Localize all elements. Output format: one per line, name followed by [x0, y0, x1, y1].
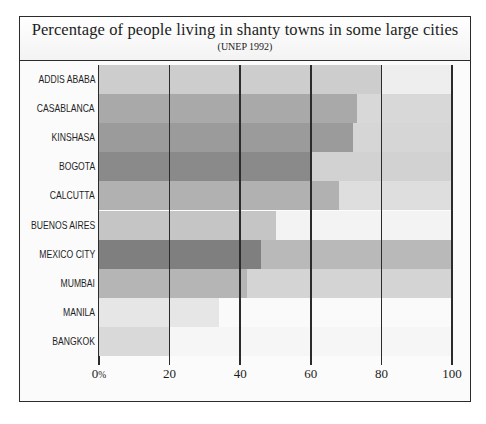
axis-tick-label: 0% [92, 366, 106, 382]
bar [99, 152, 311, 181]
bar [99, 240, 261, 269]
bar [99, 94, 357, 123]
page-title: Percentage of people living in shanty to… [20, 20, 470, 40]
category-label: ADDIS ABABA [38, 65, 95, 94]
bar [99, 181, 339, 210]
plot-wrapper: ADDIS ABABACASABLANCAKINSHASABOGOTACALCU… [20, 61, 470, 403]
chart-title-block: Percentage of people living in shanty to… [20, 17, 470, 61]
category-label: MEXICO CITY [39, 240, 95, 269]
gridline [451, 65, 453, 356]
category-label: BUENOS AIRES [31, 211, 95, 240]
bar-row [99, 181, 452, 210]
category-label: MANILA [63, 298, 95, 327]
gridline [310, 65, 312, 356]
bar-row [99, 298, 452, 327]
axis-tick [169, 356, 171, 365]
bar [99, 123, 353, 152]
gridline [381, 65, 383, 356]
bar-row [99, 123, 452, 152]
category-axis-labels: ADDIS ABABACASABLANCAKINSHASABOGOTACALCU… [20, 65, 98, 356]
axis-tick-label: 100 [442, 366, 462, 382]
bar-row [99, 152, 452, 181]
bar [99, 327, 170, 356]
gridline [169, 65, 171, 356]
axis-tick-label: 80 [375, 366, 388, 382]
bar-row [99, 94, 452, 123]
axis-tick-label: 20 [163, 366, 176, 382]
axis-tick [239, 356, 241, 365]
axis-tick [381, 356, 383, 365]
category-label: CASABLANCA [37, 94, 95, 123]
category-label: BOGOTA [59, 152, 95, 181]
bar [99, 269, 247, 298]
bar [99, 211, 276, 240]
bar-row [99, 240, 452, 269]
axis-tick-label: 40 [234, 366, 247, 382]
plot-area: 0%20406080100 [98, 65, 452, 356]
bar-row [99, 211, 452, 240]
category-label: CALCUTTA [50, 181, 95, 210]
bar-row [99, 269, 452, 298]
gridline [239, 65, 241, 356]
category-label: BANGKOK [52, 327, 95, 356]
chart-frame: Percentage of people living in shanty to… [19, 16, 471, 402]
axis-tick [310, 356, 312, 365]
chart-subtitle: (UNEP 1992) [20, 41, 470, 52]
bar [99, 298, 219, 327]
bar-row [99, 327, 452, 356]
category-label: KINSHASA [51, 123, 95, 152]
category-label: MUMBAI [61, 269, 95, 298]
axis-tick [98, 356, 100, 365]
bar-row [99, 65, 452, 94]
axis-tick [451, 356, 453, 365]
axis-tick-label: 60 [304, 366, 317, 382]
